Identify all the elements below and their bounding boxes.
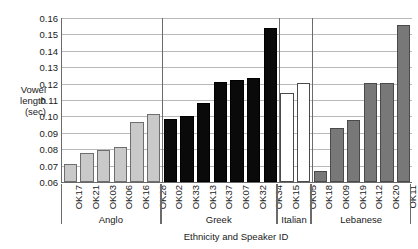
y-axis-tick-labels: 0.160.150.140.130.120.110.100.090.080.07… [24, 18, 58, 182]
bar-slot [362, 18, 379, 182]
bar-slot [79, 18, 96, 182]
bar [214, 82, 227, 182]
bar [397, 25, 410, 182]
bar-slot [279, 18, 296, 182]
y-tick-label: 0.12 [24, 78, 58, 89]
bar-slot [312, 18, 329, 182]
bar-slot [179, 18, 196, 182]
group-label: Italian [278, 214, 311, 225]
bar-slot [329, 18, 346, 182]
group-label: Anglo [62, 214, 160, 225]
group-box-lebanese: Lebanese [311, 184, 411, 224]
bar-slot [195, 18, 212, 182]
group-label: Greek [162, 214, 276, 225]
bar [364, 83, 377, 182]
bar-slot [262, 18, 279, 182]
bar [64, 164, 77, 182]
bar-slot [295, 18, 312, 182]
x-axis-title: Ethnicity and Speaker ID [61, 231, 411, 242]
bar-slot [245, 18, 262, 182]
bar-slot [345, 18, 362, 182]
group-box-italian: Italian [277, 184, 312, 224]
y-tick-label: 0.07 [24, 160, 58, 171]
ethnicity-group-band: AngloGreekItalianLebanese [61, 184, 411, 224]
group-separator [279, 18, 280, 182]
bar-slot [379, 18, 396, 182]
y-tick-label: 0.15 [24, 29, 58, 40]
y-tick-label: 0.09 [24, 127, 58, 138]
y-tick-label: 0.16 [24, 13, 58, 24]
y-tick-label: 0.10 [24, 111, 58, 122]
y-tick-label: 0.06 [24, 177, 58, 188]
plot-area [61, 18, 412, 183]
bar-slot [129, 18, 146, 182]
bar-slot [395, 18, 412, 182]
bar-slot [229, 18, 246, 182]
bar [380, 83, 393, 182]
bar-slot [62, 18, 79, 182]
bar [280, 93, 293, 182]
bar [347, 120, 360, 182]
bar [80, 153, 93, 182]
bar [180, 116, 193, 182]
bar [164, 119, 177, 182]
y-tick-label: 0.11 [24, 95, 58, 106]
group-box-greek: Greek [161, 184, 277, 224]
group-separator [162, 18, 163, 182]
group-box-anglo: Anglo [61, 184, 161, 224]
y-tick-label: 0.08 [24, 144, 58, 155]
bar [330, 128, 343, 182]
vowel-length-bar-chart: Vowel length (sec) 0.160.150.140.130.120… [0, 0, 418, 249]
bar [197, 103, 210, 182]
bar [147, 114, 160, 182]
y-tick-label: 0.13 [24, 62, 58, 73]
bar [97, 150, 110, 182]
bar-slot [112, 18, 129, 182]
bar-series [62, 18, 412, 182]
group-label: Lebanese [312, 214, 410, 225]
y-tick-label: 0.14 [24, 45, 58, 56]
bar [264, 28, 277, 182]
bar-slot [162, 18, 179, 182]
bar [247, 78, 260, 182]
bar [230, 80, 243, 182]
bar [130, 122, 143, 182]
bar-slot [95, 18, 112, 182]
group-separator [312, 18, 313, 182]
bar [314, 171, 327, 182]
bar-slot [145, 18, 162, 182]
bar [114, 147, 127, 182]
bar [297, 83, 310, 182]
bar-slot [212, 18, 229, 182]
